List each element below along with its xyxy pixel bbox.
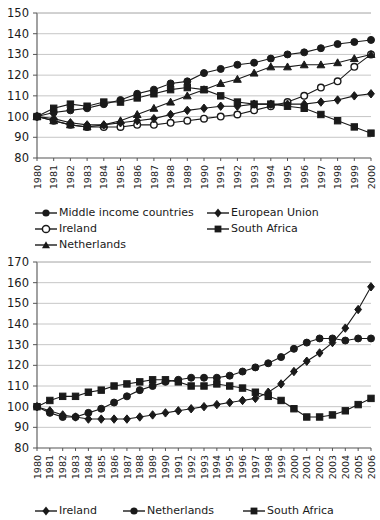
legend-label: European Union	[231, 206, 319, 220]
x-tick-label: 1997	[316, 165, 327, 189]
x-tick-label: 1982	[65, 165, 76, 189]
legend-label: Ireland	[59, 504, 97, 518]
legend-item-netherlands: Netherlands	[121, 504, 241, 518]
y-tick-label: 100	[7, 400, 29, 414]
square-filled-icon	[241, 504, 267, 518]
circle-filled-icon	[33, 206, 59, 220]
legend-item-ireland: Ireland	[33, 222, 205, 236]
x-tick-label: 1998	[332, 165, 343, 189]
x-tick-label: 2002	[314, 455, 325, 479]
y-tick-label: 160	[7, 276, 29, 290]
legend-item-south-africa: South Africa	[241, 504, 361, 518]
x-tick-label: 1985	[96, 455, 107, 479]
x-tick-label: 2004	[340, 455, 351, 479]
chart-bottom-figure: 8090100110120130140150160170198019811982…	[0, 252, 380, 520]
circle-filled-icon	[121, 504, 147, 518]
y-tick-label: 90	[14, 420, 29, 434]
legend-item-ireland: Ireland	[33, 504, 121, 518]
x-tick-label: 1992	[186, 455, 197, 479]
y-tick-label: 130	[7, 338, 29, 352]
legend-item-european-union: European Union	[205, 206, 365, 220]
legend-item-middle-income-countries: Middle income countries	[33, 206, 205, 220]
legend-row: Ireland Netherlands South Africa	[0, 504, 380, 518]
x-tick-label: 1999	[276, 455, 287, 479]
y-tick-label: 170	[7, 255, 29, 269]
x-tick-label: 1987	[149, 165, 160, 189]
x-tick-label: 1994	[265, 165, 276, 189]
square-filled-icon	[205, 222, 231, 236]
legend-label: South Africa	[231, 222, 298, 236]
y-tick-label: 110	[7, 379, 29, 393]
x-tick-label: 2001	[301, 455, 312, 479]
x-tick-label: 1989	[182, 165, 193, 189]
x-tick-label: 1989	[147, 455, 158, 479]
x-tick-label: 1995	[224, 455, 235, 479]
y-tick-label: 140	[7, 317, 29, 331]
x-tick-label: 1986	[132, 165, 143, 189]
y-tick-label: 120	[7, 358, 29, 372]
x-tick-label: 1980	[32, 165, 43, 189]
x-tick-label: 1983	[70, 455, 81, 479]
chart-bottom-legend: Ireland Netherlands South Africa	[0, 504, 380, 518]
x-tick-label: 1996	[299, 165, 310, 189]
x-tick-label: 1996	[237, 455, 248, 479]
x-tick-label: 1993	[249, 165, 260, 189]
x-tick-label: 1980	[32, 455, 43, 479]
chart-bottom-svg: 8090100110120130140150160170198019811982…	[0, 252, 380, 502]
legend-item-netherlands: Netherlands	[33, 238, 205, 252]
x-tick-label: 2000	[366, 165, 377, 189]
circle-open-icon	[33, 222, 59, 236]
x-tick-label: 1999	[349, 165, 360, 189]
x-tick-label: 1990	[160, 455, 171, 479]
x-tick-label: 1993	[199, 455, 210, 479]
x-tick-label: 1985	[115, 165, 126, 189]
x-tick-label: 2003	[327, 455, 338, 479]
x-tick-label: 1988	[134, 455, 145, 479]
legend-row: Ireland South Africa	[0, 222, 380, 236]
x-tick-label: 1988	[165, 165, 176, 189]
x-tick-label: 1981	[44, 455, 55, 479]
x-tick-label: 1998	[263, 455, 274, 479]
diamond-filled-icon	[33, 504, 59, 518]
x-tick-label: 2005	[353, 455, 364, 479]
x-tick-label: 1984	[98, 165, 109, 189]
legend-item-south-africa: South Africa	[205, 222, 365, 236]
x-tick-label: 1984	[83, 455, 94, 479]
x-tick-label: 1995	[282, 165, 293, 189]
legend-label: Netherlands	[147, 504, 214, 518]
x-tick-label: 1986	[109, 455, 120, 479]
legend-label: Netherlands	[59, 238, 126, 252]
y-tick-label: 140	[7, 27, 29, 41]
triangle-filled-icon	[33, 238, 59, 252]
y-tick-label: 120	[7, 68, 29, 82]
chart-bottom-plot-area: 8090100110120130140150160170198019811982…	[0, 252, 380, 502]
x-tick-label: 1992	[232, 165, 243, 189]
legend-label: South Africa	[267, 504, 334, 518]
y-tick-label: 150	[7, 296, 29, 310]
chart-top-legend: Middle income countries European Union I…	[0, 206, 380, 254]
y-tick-label: 90	[14, 130, 29, 144]
legend-label: Ireland	[59, 222, 97, 236]
x-tick-label: 1997	[250, 455, 261, 479]
x-tick-label: 1982	[57, 455, 68, 479]
legend-label: Middle income countries	[59, 206, 194, 220]
x-tick-label: 1983	[82, 165, 93, 189]
y-tick-label: 100	[7, 110, 29, 124]
chart-top-svg: 8090100110120130140150198019811982198319…	[0, 0, 380, 205]
x-tick-label: 1991	[173, 455, 184, 479]
y-tick-label: 110	[7, 89, 29, 103]
x-tick-label: 1987	[122, 455, 133, 479]
y-tick-label: 80	[14, 151, 29, 165]
legend-row: Netherlands	[0, 238, 380, 252]
y-tick-label: 150	[7, 6, 29, 20]
x-tick-label: 1981	[48, 165, 59, 189]
chart-top-plot-area: 8090100110120130140150198019811982198319…	[0, 0, 380, 205]
y-tick-label: 130	[7, 47, 29, 61]
diamond-filled-icon	[205, 206, 231, 220]
x-tick-label: 1990	[199, 165, 210, 189]
x-tick-label: 2006	[366, 455, 377, 479]
x-tick-label: 1991	[215, 165, 226, 189]
x-tick-label: 2000	[289, 455, 300, 479]
legend-row: Middle income countries European Union	[0, 206, 380, 220]
y-tick-label: 80	[14, 441, 29, 455]
